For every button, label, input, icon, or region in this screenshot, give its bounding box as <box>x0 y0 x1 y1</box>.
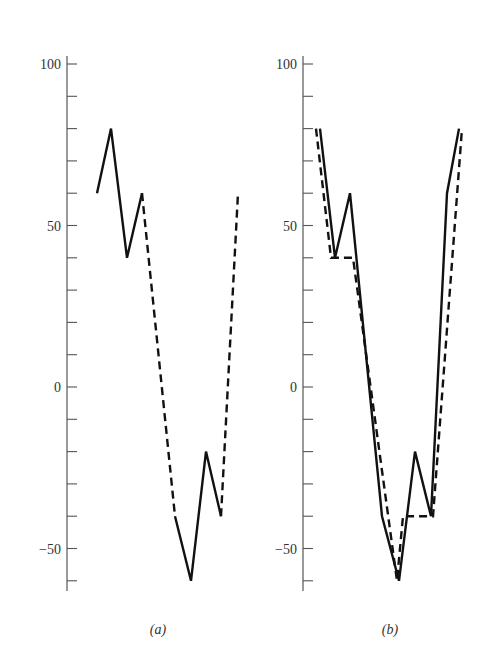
y-tick-label: 100 <box>276 57 297 72</box>
panel-label: (a) <box>150 622 167 638</box>
figure: 100500−50(a) 100500−50(b) <box>0 0 492 652</box>
y-tick-label: −50 <box>275 542 297 557</box>
y-tick-label: −50 <box>39 542 61 557</box>
panel-b-chart: 100500−50(b) <box>275 56 462 638</box>
dashed-series-line <box>221 193 238 516</box>
panel-label: (b) <box>382 622 399 638</box>
solid-series-line <box>175 452 221 581</box>
y-tick-label: 0 <box>54 380 61 395</box>
y-tick-label: 0 <box>290 380 297 395</box>
y-tick-label: 50 <box>47 219 61 234</box>
dashed-series-line <box>142 193 175 516</box>
solid-series-line <box>320 129 459 581</box>
solid-series-line <box>97 129 142 258</box>
y-tick-label: 100 <box>40 57 61 72</box>
y-tick-label: 50 <box>283 219 297 234</box>
panel-a-chart: 100500−50(a) <box>39 56 238 638</box>
